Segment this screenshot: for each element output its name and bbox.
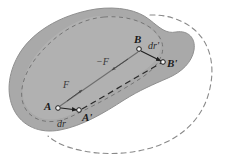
label-point-A-prime: A': [82, 112, 92, 123]
point-marker-B: [137, 47, 142, 52]
label-vector-dr: dr: [57, 119, 66, 129]
diagram-canvas: [0, 0, 231, 158]
label-point-A: A: [44, 101, 51, 112]
label-force-F: F: [63, 80, 69, 90]
label-vector-dr-prime: dr': [148, 41, 159, 51]
label-point-B: B: [134, 34, 141, 45]
figure-root: A A' B B' dr dr' F −F: [0, 0, 231, 158]
point-marker-Aprime: [77, 108, 82, 113]
point-marker-A: [56, 106, 61, 111]
label-point-B-prime: B': [167, 58, 177, 69]
label-force-minus-F: −F: [96, 57, 109, 67]
point-marker-Bprime: [161, 60, 166, 65]
